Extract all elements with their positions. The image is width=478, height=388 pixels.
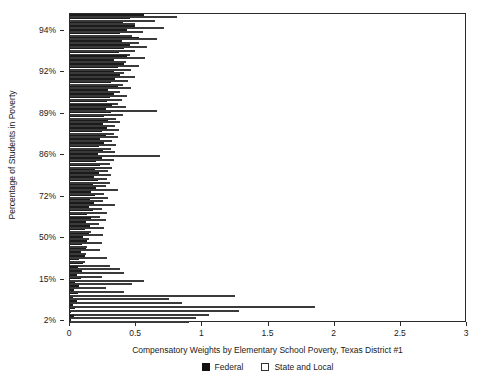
legend-label: Federal	[215, 362, 244, 372]
legend-entry: State and Local	[261, 362, 333, 372]
y-tick-label: 92%	[39, 67, 56, 76]
y-tick-label: 2%	[44, 316, 56, 325]
x-tick-label: 1	[199, 328, 204, 338]
x-tick-mark	[69, 322, 70, 326]
bar-state-and-local	[70, 291, 124, 293]
x-axis: 00.511.522.53	[69, 322, 466, 362]
plot-area	[69, 13, 466, 322]
x-tick-label: 1.5	[262, 328, 274, 338]
bars-layer	[70, 14, 465, 321]
legend-label: State and Local	[274, 362, 333, 372]
y-tick-mark	[60, 154, 64, 155]
x-tick-label: 2	[331, 328, 336, 338]
bar-state-and-local	[70, 306, 315, 308]
y-tick-label: 94%	[39, 25, 56, 34]
y-tick-mark	[60, 113, 64, 114]
x-tick-mark	[135, 322, 136, 326]
x-tick-mark	[400, 322, 401, 326]
bar-state-and-local	[70, 302, 182, 304]
y-tick-mark	[60, 320, 64, 321]
chart-legend: FederalState and Local	[69, 362, 466, 372]
y-tick-mark	[60, 279, 64, 280]
bar-state-and-local	[70, 295, 235, 297]
chart-container: Percentage of Students in Poverty 94%92%…	[0, 0, 478, 388]
bar-state-and-local	[70, 280, 144, 282]
bar-state-and-local	[70, 272, 124, 274]
bar-state-and-local	[70, 298, 169, 300]
y-tick-mark	[60, 237, 64, 238]
legend-swatch-state-local-icon	[261, 363, 269, 371]
bar-state-and-local	[70, 314, 209, 316]
bar-state-and-local	[70, 287, 106, 289]
y-tick-label: 72%	[39, 191, 56, 200]
bar-state-and-local	[70, 317, 196, 319]
x-tick-mark	[334, 322, 335, 326]
bar-state-and-local	[70, 283, 132, 285]
x-tick-label: 0.5	[129, 328, 141, 338]
y-tick-label: 15%	[39, 274, 56, 283]
x-tick-mark	[201, 322, 202, 326]
y-tick-mark	[60, 30, 64, 31]
x-tick-label: 2.5	[394, 328, 406, 338]
legend-entry: Federal	[202, 362, 244, 372]
x-tick-mark	[466, 322, 467, 326]
x-axis-title: Compensatory Weights by Elementary Schoo…	[69, 345, 466, 355]
legend-swatch-federal-icon	[202, 363, 210, 371]
x-tick-label: 0	[67, 328, 72, 338]
x-tick-mark	[268, 322, 269, 326]
bar-state-and-local	[70, 310, 239, 312]
y-tick-mark	[60, 71, 64, 72]
y-axis: 94%92%89%86%72%50%15%2%	[0, 0, 69, 388]
y-tick-label: 86%	[39, 150, 56, 159]
y-tick-label: 50%	[39, 233, 56, 242]
x-tick-label: 3	[464, 328, 469, 338]
y-tick-mark	[60, 196, 64, 197]
y-tick-label: 89%	[39, 108, 56, 117]
